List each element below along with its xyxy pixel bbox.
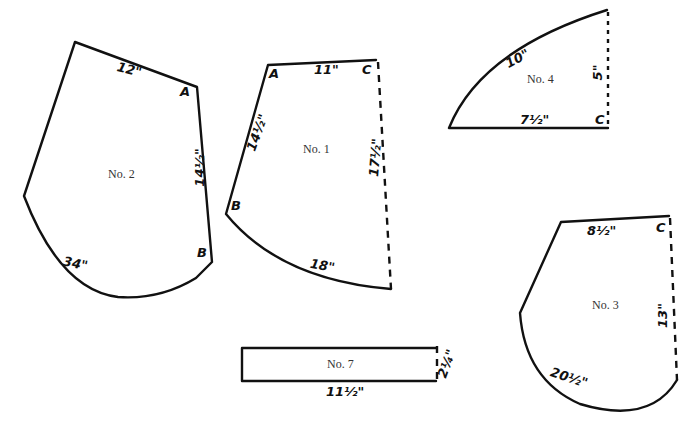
piece-no2-point-b: B [197, 245, 207, 260]
piece-no7-bottom-measure: 11½" [326, 384, 364, 399]
piece-no4-title: No. 4 [527, 72, 554, 87]
piece-no1-point-c: C [362, 62, 372, 77]
piece-no4-point-c: C [595, 112, 605, 127]
piece-no1-point-b: B [231, 198, 241, 213]
piece-no1-title: No. 1 [303, 142, 330, 157]
piece-no2-right-measure: 14½" [192, 148, 207, 186]
piece-no3-fold-line [670, 218, 677, 380]
piece-no4-right-measure: 5" [590, 65, 605, 81]
piece-no2-point-a: A [180, 84, 190, 99]
piece-no2-title: No. 2 [108, 167, 135, 182]
piece-no3-point-c: C [656, 220, 666, 235]
piece-no7-title: No. 7 [327, 357, 354, 372]
piece-no4-outline [449, 10, 608, 128]
piece-no3-top-measure: 8½" [587, 223, 616, 238]
piece-no3-title: No. 3 [592, 298, 619, 313]
piece-no4-bottom-measure: 7½" [520, 112, 549, 127]
piece-no3-outline [520, 216, 677, 411]
piece-no1-point-a: A [269, 66, 279, 81]
piece-no3-right-measure: 13" [655, 303, 670, 328]
piece-no1-top-measure: 11" [314, 62, 339, 77]
